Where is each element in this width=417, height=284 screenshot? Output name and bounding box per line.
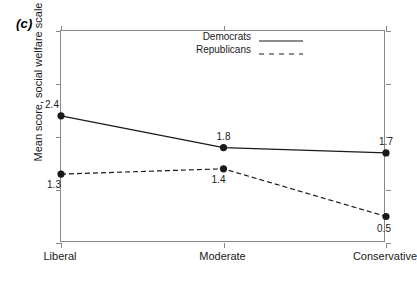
legend-label: Republicans: [196, 44, 251, 55]
x-tick-label: Liberal: [43, 250, 76, 262]
x-tick-mark: [386, 243, 387, 248]
data-point-marker: [220, 165, 227, 172]
data-point-marker: [382, 213, 389, 220]
data-point-label: 1.7: [379, 135, 393, 146]
data-point-marker: [57, 112, 64, 119]
y-axis-title: Mean score, social welfare scale: [32, 0, 44, 182]
y-tick-mark-right: [386, 190, 391, 191]
legend-item-democrats: Democrats: [123, 31, 303, 42]
x-tick-mark: [224, 243, 225, 248]
x-tick-mark: [61, 243, 62, 248]
data-point-label: 1.8: [217, 130, 231, 141]
data-point-marker: [57, 171, 64, 178]
legend-line-sample: [259, 45, 303, 55]
data-point-label: 1.4: [212, 173, 226, 184]
x-tick-label: Conservative: [353, 250, 417, 262]
chart-legend: DemocratsRepublicans: [123, 31, 303, 57]
data-point-label: 0.5: [377, 222, 391, 233]
x-tick-mark-top: [386, 26, 387, 31]
legend-line-sample: [259, 32, 303, 42]
data-point-label: 1.3: [47, 179, 61, 190]
plot-area: 2.41.81.71.31.40.5 DemocratsRepublicans: [60, 30, 385, 242]
legend-label: Democrats: [203, 31, 251, 42]
legend-item-republicans: Republicans: [123, 44, 303, 55]
data-point-marker: [382, 149, 389, 156]
data-point-label: 2.4: [45, 98, 59, 109]
panel-label: (c): [16, 16, 33, 31]
y-tick-mark-right: [386, 31, 391, 32]
x-tick-label: Moderate: [199, 250, 245, 262]
data-point-marker: [220, 144, 227, 151]
y-tick-mark-right: [386, 84, 391, 85]
